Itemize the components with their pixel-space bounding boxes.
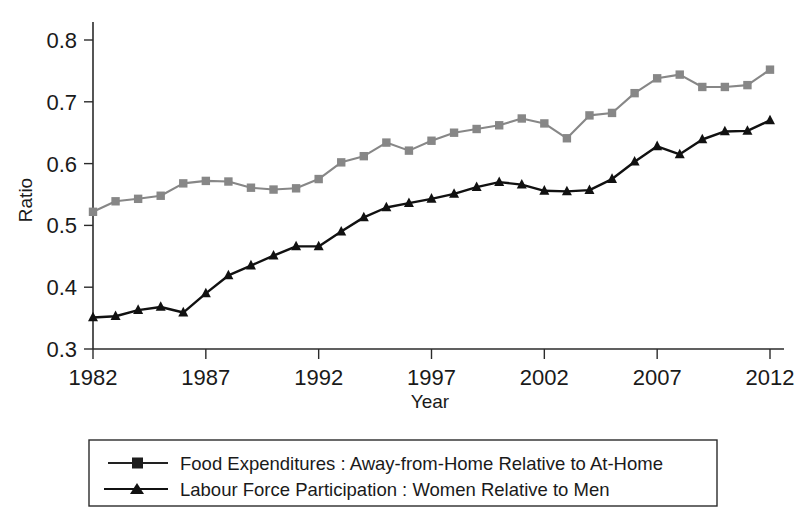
data-point-marker xyxy=(494,176,504,186)
y-axis-title: Ratio xyxy=(15,178,36,222)
legend-label-food: Food Expenditures : Away-from-Home Relat… xyxy=(180,453,663,474)
data-point-marker xyxy=(382,138,390,146)
labour-series-markers xyxy=(88,115,775,322)
data-point-marker xyxy=(743,81,751,89)
data-point-marker xyxy=(247,184,255,192)
x-tick-label: 1992 xyxy=(294,365,343,390)
data-point-marker xyxy=(157,192,165,200)
x-tick-label: 1987 xyxy=(181,365,230,390)
data-point-marker xyxy=(698,83,706,91)
data-point-marker xyxy=(134,195,142,203)
chart-figure: 0.30.40.50.60.70.8 198219871992199720022… xyxy=(0,0,804,518)
x-tick-label: 1997 xyxy=(407,365,456,390)
data-point-marker xyxy=(652,141,662,151)
x-axis-title: Year xyxy=(411,391,450,412)
chart-legend: Food Expenditures : Away-from-Home Relat… xyxy=(89,440,717,506)
y-axis-ticks xyxy=(84,40,93,349)
data-point-marker xyxy=(495,121,503,129)
legend-label-labour: Labour Force Participation : Women Relat… xyxy=(180,479,609,500)
data-point-marker xyxy=(518,114,526,122)
data-point-marker xyxy=(676,70,684,78)
data-point-marker xyxy=(202,177,210,185)
x-tick-label: 2007 xyxy=(633,365,682,390)
x-tick-label: 2012 xyxy=(746,365,795,390)
data-point-marker xyxy=(608,109,616,117)
line-chart-canvas: 0.30.40.50.60.70.8 198219871992199720022… xyxy=(0,0,804,518)
square-marker-icon xyxy=(132,458,143,469)
y-tick-label: 0.3 xyxy=(46,337,77,362)
data-point-marker xyxy=(405,146,413,154)
data-point-marker xyxy=(224,177,232,185)
data-point-marker xyxy=(472,125,480,133)
data-point-marker xyxy=(607,173,617,183)
data-point-marker xyxy=(360,152,368,160)
data-point-marker xyxy=(450,129,458,137)
y-tick-label: 0.7 xyxy=(46,90,77,115)
labour-series-line xyxy=(93,120,770,317)
data-point-marker xyxy=(653,74,661,82)
data-point-marker xyxy=(585,111,593,119)
y-tick-label: 0.8 xyxy=(46,28,77,53)
y-axis-tick-labels: 0.30.40.50.60.70.8 xyxy=(46,28,77,362)
y-tick-label: 0.5 xyxy=(46,213,77,238)
data-point-marker xyxy=(337,158,345,166)
data-point-marker xyxy=(179,179,187,187)
data-point-marker xyxy=(563,134,571,142)
x-tick-label: 2002 xyxy=(520,365,569,390)
legend-entry-labour: Labour Force Participation : Women Relat… xyxy=(104,479,609,500)
data-point-marker xyxy=(766,65,774,73)
x-axis-tick-labels: 1982198719921997200220072012 xyxy=(69,365,795,390)
data-point-marker xyxy=(269,185,277,193)
data-point-marker xyxy=(765,115,775,125)
data-point-marker xyxy=(314,175,322,183)
data-point-marker xyxy=(630,89,638,97)
data-point-marker xyxy=(721,83,729,91)
data-point-marker xyxy=(630,156,640,166)
x-tick-label: 1982 xyxy=(69,365,118,390)
y-tick-label: 0.4 xyxy=(46,275,77,300)
data-point-marker xyxy=(427,137,435,145)
data-point-marker xyxy=(111,197,119,205)
data-point-marker xyxy=(156,301,166,311)
data-point-marker xyxy=(89,208,97,216)
series-labour-force-participation xyxy=(88,115,775,322)
data-point-marker xyxy=(540,119,548,127)
x-axis-ticks xyxy=(93,349,770,359)
data-point-marker xyxy=(292,184,300,192)
y-tick-label: 0.6 xyxy=(46,152,77,177)
legend-entry-food: Food Expenditures : Away-from-Home Relat… xyxy=(108,453,663,474)
